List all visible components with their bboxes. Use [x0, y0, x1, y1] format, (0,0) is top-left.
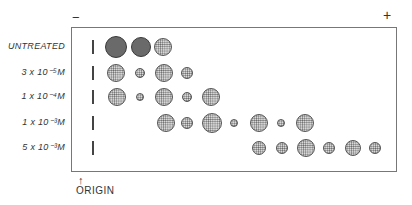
protein-spot: [202, 113, 222, 133]
protein-spot: [182, 92, 192, 102]
protein-spot: [323, 142, 335, 154]
protein-spot: [297, 139, 315, 157]
protein-spot: [157, 114, 175, 132]
origin-line: [92, 90, 94, 104]
protein-spot: [230, 119, 238, 127]
protein-spot: [345, 140, 361, 156]
protein-spot: [252, 141, 266, 155]
protein-spot: [136, 93, 144, 101]
protein-spot: [181, 67, 193, 79]
row-label: UNTREATED: [8, 41, 65, 51]
positive-pole-label: +: [383, 7, 391, 23]
protein-spot: [108, 88, 126, 106]
protein-spot: [369, 142, 381, 154]
origin-marker: ↑ ORIGIN: [76, 176, 115, 196]
protein-spot: [155, 64, 173, 82]
protein-spot: [277, 119, 285, 127]
row-label: 1 x 10⁻³M: [22, 117, 65, 127]
protein-spot: [202, 88, 220, 106]
origin-line: [92, 116, 94, 130]
row-label: 1 x 10⁻⁴M: [21, 91, 65, 101]
protein-spot: [135, 68, 145, 78]
protein-spot: [250, 114, 268, 132]
negative-pole-label: −: [72, 10, 80, 25]
protein-spot: [296, 114, 314, 132]
row-label: 3 x 10⁻⁵M: [22, 67, 66, 77]
up-arrow-icon: ↑: [78, 176, 115, 185]
protein-spot: [181, 117, 193, 129]
origin-line: [92, 66, 94, 80]
protein-spot: [154, 38, 172, 56]
origin-label: ORIGIN: [76, 185, 115, 196]
protein-spot: [105, 36, 127, 58]
protein-spot: [276, 142, 288, 154]
row-label: 5 x 10⁻³M: [22, 142, 65, 152]
protein-spot: [131, 37, 151, 57]
origin-line: [92, 40, 94, 54]
protein-spot: [155, 88, 173, 106]
origin-line: [92, 141, 94, 155]
protein-spot: [107, 64, 125, 82]
